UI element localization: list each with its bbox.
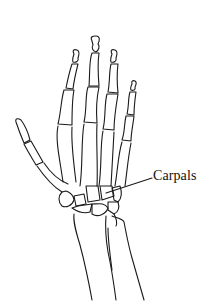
carpals-label: Carpals [153, 168, 196, 184]
forearm-bones [74, 214, 144, 300]
index-finger-bones [57, 50, 79, 182]
little-finger-bones [115, 81, 136, 186]
ring-finger-bones [99, 50, 118, 186]
hand-skeleton-diagram: Carpals [0, 0, 216, 306]
hand-bones-illustration [0, 0, 216, 306]
middle-finger-bones [80, 36, 99, 186]
carpal-bones [59, 186, 121, 226]
carpals-leader-line [106, 178, 152, 193]
thumb-bones [16, 119, 68, 192]
